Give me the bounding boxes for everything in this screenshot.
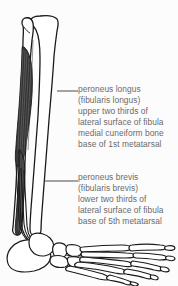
peroneus-longus-muscle — [15, 46, 32, 166]
anatomy-figure: peroneus longus (fibularis longus) upper… — [0, 0, 178, 286]
cuneiform-bone-1 — [66, 245, 82, 257]
foot-skeleton — [7, 233, 175, 286]
phalanx-5-distal — [130, 282, 138, 286]
label-peroneus-longus-line-3: upper two thirds of — [78, 106, 164, 117]
label-peroneus-brevis-line-5: base of 5th metatarsal — [78, 216, 164, 227]
label-peroneus-longus-line-4: lateral surface of fibula — [78, 117, 164, 128]
cuboid-bone — [50, 256, 69, 268]
talus-bone — [29, 233, 54, 256]
phalanx-3-proximal — [131, 261, 163, 271]
label-peroneus-longus-line-2: (fibularis longus) — [78, 95, 164, 106]
phalanx-3-distal — [160, 267, 169, 272]
phalanx-1-proximal — [129, 244, 166, 251]
phalanx-4-distal — [150, 275, 158, 280]
phalanx-5-proximal — [107, 275, 133, 285]
phalanx-2-proximal — [133, 253, 167, 260]
label-peroneus-longus-line-5: medial cuneiform bone — [78, 128, 164, 139]
label-peroneus-brevis-line-3: lower two thirds of — [78, 194, 164, 205]
phalanx-2-distal — [166, 256, 175, 261]
label-peroneus-longus: peroneus longus (fibularis longus) upper… — [78, 84, 164, 150]
label-peroneus-longus-line-1: peroneus longus — [78, 84, 164, 95]
label-peroneus-brevis-line-1: peroneus brevis — [78, 172, 164, 183]
label-peroneus-brevis-line-2: (fibularis brevis) — [78, 183, 164, 194]
label-peroneus-longus-line-6: base of 1st metatarsal — [78, 139, 164, 150]
label-peroneus-brevis-line-4: lateral surface of fibula — [78, 205, 164, 216]
phalanx-4-proximal — [124, 269, 153, 279]
label-peroneus-brevis: peroneus brevis (fibularis brevis) lower… — [78, 172, 164, 227]
phalanx-1-distal — [165, 246, 175, 251]
metatarsal-1 — [80, 245, 131, 252]
tibia-bone — [30, 16, 58, 236]
